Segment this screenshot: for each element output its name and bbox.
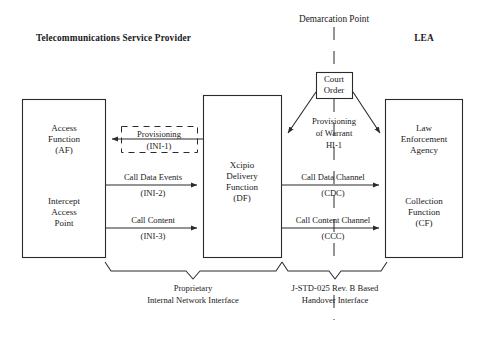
access-function-label-line2: Function (24, 134, 104, 145)
call-data-events-ini2-code: (INI-2) (98, 188, 208, 198)
call-data-channel-code: (CDC) (273, 188, 393, 198)
law-enforcement-label-line3: Agency (386, 145, 462, 156)
intercept-access-point-label-line3: Point (24, 218, 104, 229)
diagram-canvas: Telecommunications Service Provider Dema… (0, 0, 485, 348)
collection-function-label-line1: Collection (386, 196, 462, 207)
title-lea: LEA (394, 33, 454, 44)
provisioning-ini1-label: Provisioning (114, 129, 204, 139)
provisioning-ini1-code: (INI-1) (114, 141, 204, 151)
right-brace (282, 262, 387, 279)
provisioning-warrant-line1: Provisioning (284, 116, 384, 126)
call-content-ini3-label: Call Content (98, 215, 208, 225)
call-data-events-ini2-label: Call Data Events (98, 172, 208, 182)
court-order-label-line2: Order (314, 85, 354, 95)
call-content-channel-label: Call Content Channel (263, 215, 403, 225)
court-order-to-df-arrow (288, 92, 316, 133)
access-function-label-line3: (AF) (24, 145, 104, 156)
delivery-function-label-line4: (DF) (204, 193, 280, 204)
delivery-function-label-line3: Function (204, 182, 280, 193)
right-interface-caption-line1: J-STD-025 Rev. B Based (235, 283, 435, 293)
law-enforcement-label-line1: Law (386, 123, 462, 134)
delivery-function-label-line2: Delivery (204, 171, 280, 182)
access-function-label-line1: Access (24, 123, 104, 134)
provisioning-warrant-line2: of Warrant (284, 128, 384, 138)
court-order-label-line1: Court (314, 74, 354, 84)
intercept-access-point-label-line1: Intercept (24, 196, 104, 207)
left-brace (105, 262, 282, 279)
delivery-function-label-line1: Xcipio (204, 160, 280, 171)
court-order-to-lea-arrow (353, 92, 380, 133)
call-content-ini3-code: (INI-3) (98, 231, 208, 241)
intercept-access-point-label-line2: Access (24, 207, 104, 218)
law-enforcement-label-line2: Enforcement (386, 134, 462, 145)
call-content-channel-code: (CCC) (263, 231, 403, 241)
right-interface-caption-line2: Handover Interface (235, 295, 435, 305)
call-data-channel-label: Call Data Channel (273, 172, 393, 182)
demarcation-point-label: Demarcation Point (274, 14, 394, 25)
title-telecom-service-provider: Telecommunications Service Provider (36, 33, 191, 44)
provisioning-warrant-line3: HI-1 (284, 140, 384, 150)
